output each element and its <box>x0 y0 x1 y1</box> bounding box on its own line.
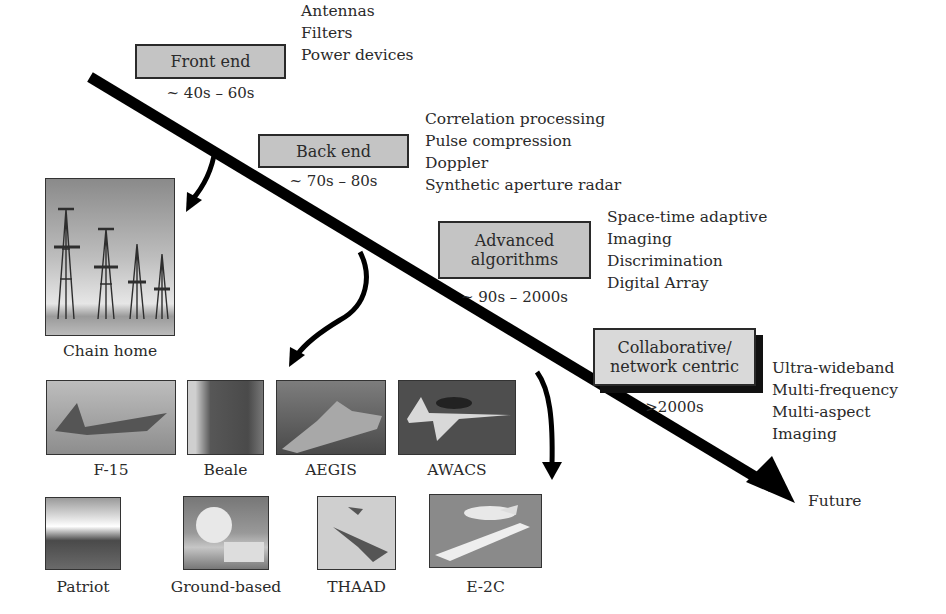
tech-item: Multi-aspect <box>772 401 898 423</box>
radar-towers-icon <box>46 179 175 336</box>
caption-beale: Beale <box>187 461 264 479</box>
tech-list-advanced-algorithms: Space-time adaptive Imaging Discriminati… <box>607 206 767 294</box>
caption-thaad: THAAD <box>317 578 396 596</box>
ground-based-photo <box>183 496 269 570</box>
tech-item: Multi-frequency <box>772 379 898 401</box>
tech-item: Power devices <box>301 44 414 66</box>
era-box-front-end: Front end <box>135 44 286 79</box>
tech-item: Antennas <box>301 0 414 22</box>
e2c-plane-icon <box>430 495 542 568</box>
tech-list-front-end: Antennas Filters Power devices <box>301 0 414 66</box>
era-label: network centric <box>610 357 739 376</box>
aegis-photo <box>276 380 386 455</box>
tech-list-back-end: Correlation processing Pulse compression… <box>425 108 621 196</box>
tech-item: Doppler <box>425 152 621 174</box>
era-date: ~ 40s – 60s <box>135 84 286 102</box>
tech-item: Correlation processing <box>425 108 621 130</box>
tech-item: Imaging <box>607 228 767 250</box>
tech-item: Digital Array <box>607 272 767 294</box>
era-box-back-end: Back end <box>258 134 409 168</box>
radome-icon <box>184 497 269 570</box>
tech-item: Discrimination <box>607 250 767 272</box>
f15-photo <box>46 380 176 455</box>
era-date: >2000s <box>593 398 756 416</box>
era-label: algorithms <box>471 250 558 269</box>
era-label: Back end <box>296 142 371 161</box>
caption-chain-home: Chain home <box>45 342 175 360</box>
era-label: Advanced <box>475 231 554 250</box>
e2c-photo <box>429 494 542 568</box>
awacs-plane-icon <box>399 381 516 455</box>
era-box-collaborative: Collaborative/ network centric <box>593 328 756 386</box>
tech-item: Space-time adaptive <box>607 206 767 228</box>
era-date: ~ 90s – 2000s <box>428 288 601 306</box>
patriot-photo <box>45 497 121 570</box>
branch-arrowhead-icon <box>542 462 562 480</box>
caption-awacs: AWACS <box>398 461 516 479</box>
caption-ground-based: Ground-based <box>170 578 282 596</box>
fighter-jet-icon <box>47 381 176 455</box>
awacs-photo <box>398 380 516 455</box>
era-box-advanced-algorithms: Advanced algorithms <box>438 221 591 279</box>
tech-item: Imaging <box>772 423 898 445</box>
era-label: Collaborative/ <box>617 338 731 357</box>
tech-list-collaborative: Ultra-wideband Multi-frequency Multi-asp… <box>772 357 898 445</box>
era-date: ~ 70s – 80s <box>258 172 409 190</box>
ship-icon <box>277 381 386 455</box>
launcher-icon <box>318 497 396 570</box>
thaad-photo <box>317 496 396 570</box>
caption-patriot: Patriot <box>45 578 121 596</box>
beale-photo <box>187 380 264 455</box>
caption-aegis: AEGIS <box>276 461 386 479</box>
future-label: Future <box>808 492 862 510</box>
caption-e2c: E-2C <box>429 578 542 596</box>
tech-item: Ultra-wideband <box>772 357 898 379</box>
tech-item: Pulse compression <box>425 130 621 152</box>
tech-item: Filters <box>301 22 414 44</box>
timeline-arrowhead-icon <box>746 456 795 503</box>
tech-item: Synthetic aperture radar <box>425 174 621 196</box>
era-label: Front end <box>170 52 250 71</box>
caption-f15: F-15 <box>46 461 176 479</box>
chain-home-photo <box>45 178 175 336</box>
